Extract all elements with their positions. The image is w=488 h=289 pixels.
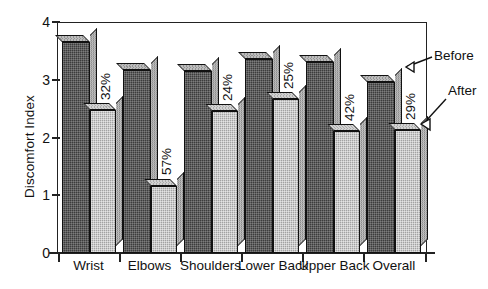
y-tick-label-2: 2: [30, 131, 50, 145]
x-category-label-lower-back: Lower Back: [238, 258, 308, 273]
y-tick-mark-0: [49, 252, 57, 254]
bar-upper-back-after: [334, 131, 360, 253]
y-tick-mark-4: [52, 21, 60, 23]
pct-label-wrist: 32%: [99, 73, 113, 100]
y-tick-label-1: 1: [30, 188, 50, 202]
bar-top-face: [177, 64, 212, 71]
y-tick-mark-2: [52, 137, 60, 139]
callout-label-before: Before: [434, 48, 474, 63]
y-tick-mark-1: [52, 194, 60, 196]
bar-front-face: [334, 131, 360, 253]
bar-side-face: [116, 96, 123, 246]
pct-label-elbows: 57%: [160, 148, 174, 175]
bar-front-face: [306, 62, 334, 253]
x-category-label-elbows: Elbows: [119, 258, 180, 273]
bar-front-face: [123, 70, 151, 253]
bar-top-face: [55, 35, 90, 42]
bar-front-face: [245, 59, 273, 253]
bar-side-face: [360, 117, 367, 246]
x-category-label-shoulders: Shoulders: [178, 258, 243, 273]
bar-side-face: [299, 85, 306, 246]
x-category-label-overall: Overall: [363, 258, 425, 273]
bar-top-face: [238, 52, 273, 59]
pct-label-lower-back: 25%: [282, 62, 296, 89]
discomfort-index-bar-chart: Discomfort Index 4 3 2 1 0 32% 57%: [0, 0, 488, 289]
bar-lower-back-after: [273, 99, 299, 253]
bar-front-face: [151, 186, 177, 253]
callout-label-after: After: [448, 83, 477, 98]
pct-label-upper-back: 42%: [343, 94, 357, 121]
x-category-label-wrist: Wrist: [58, 258, 119, 273]
bar-overall-before: [367, 82, 395, 253]
x-tick-mark: [425, 253, 427, 262]
y-tick-label-4: 4: [30, 15, 50, 29]
pct-label-overall: 29%: [404, 93, 418, 120]
bar-wrist-before: [62, 42, 90, 253]
bar-top-face: [360, 75, 395, 82]
bar-front-face: [212, 111, 238, 253]
y-tick-label-0: 0: [30, 246, 50, 260]
bar-side-face: [177, 172, 184, 246]
bar-front-face: [184, 71, 212, 253]
bar-front-face: [62, 42, 90, 253]
y-tick-label-3: 3: [30, 73, 50, 87]
bar-elbows-before: [123, 70, 151, 253]
bar-overall-after: [395, 130, 421, 253]
bar-front-face: [273, 99, 299, 253]
x-category-label-upper-back: Upper Back: [299, 258, 369, 273]
bar-lower-back-before: [245, 59, 273, 253]
bar-elbows-after: [151, 186, 177, 253]
bar-side-face: [421, 116, 428, 246]
bar-front-face: [395, 130, 421, 253]
pct-label-shoulders: 24%: [221, 74, 235, 101]
bar-wrist-after: [90, 110, 116, 253]
y-axis-title: Discomfort Index: [22, 95, 37, 198]
bar-shoulders-after: [212, 111, 238, 253]
bar-shoulders-before: [184, 71, 212, 253]
bar-top-face: [299, 55, 334, 62]
bar-top-face: [116, 63, 151, 70]
bar-front-face: [367, 82, 395, 253]
bar-side-face: [238, 97, 245, 246]
y-tick-mark-3: [52, 79, 60, 81]
after-callout-line: [425, 99, 446, 122]
bar-front-face: [90, 110, 116, 253]
bar-upper-back-before: [306, 62, 334, 253]
